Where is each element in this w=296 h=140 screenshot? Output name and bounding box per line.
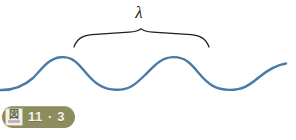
wavelength-brace-icon — [74, 29, 209, 47]
textbook-mark-glyph: 図 — [6, 110, 22, 120]
figure-section-number: 3 — [57, 110, 65, 124]
figure-number-separator: · — [48, 110, 52, 124]
sinusoidal-wave-path — [0, 57, 286, 90]
textbook-mark-underline — [8, 120, 20, 123]
textbook-mark-icon: 図 — [5, 108, 23, 126]
physics-wave-figure: λ 図 11 · 3 — [0, 0, 296, 140]
figure-chapter-number: 11 — [28, 110, 43, 124]
figure-caption-badge: 図 11 · 3 — [2, 106, 75, 128]
wavelength-symbol-label: λ — [126, 3, 152, 23]
